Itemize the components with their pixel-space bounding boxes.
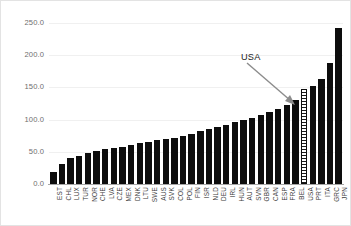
- bar: [284, 105, 290, 184]
- bar-column: [50, 172, 56, 184]
- bar: [240, 120, 246, 184]
- bar-highlighted-usa: [301, 89, 307, 184]
- bar-column: [93, 151, 99, 184]
- x-axis-tick-label: DEU: [220, 187, 227, 221]
- x-axis-tick-label: HUN: [238, 187, 245, 221]
- bar-column: [67, 158, 73, 184]
- bar-column: [275, 109, 281, 184]
- bar: [119, 147, 125, 184]
- y-axis-tick-label: 150.0: [2, 83, 44, 91]
- bar-column: [206, 129, 212, 184]
- bar-column: [59, 164, 65, 184]
- bar-column: [310, 86, 316, 184]
- bar: [258, 115, 264, 184]
- x-axis-tick-label: GRC: [333, 187, 340, 221]
- x-axis-tick-label: CHE: [99, 187, 106, 221]
- bar-column: [137, 143, 143, 184]
- y-axis-tick-label: 0.0: [2, 180, 44, 188]
- bar-column: [232, 122, 238, 184]
- x-axis-tick-label: LTU: [142, 187, 149, 221]
- bar-column: [180, 136, 186, 184]
- bar-column: [292, 100, 298, 184]
- bar: [163, 139, 169, 184]
- bar: [50, 172, 56, 184]
- bar-column: [154, 140, 160, 184]
- x-axis-tick-label: NLD: [212, 187, 219, 221]
- bar-column: [266, 112, 272, 184]
- x-axis-tick-label: COL: [177, 187, 184, 221]
- gridline: [49, 23, 343, 24]
- bar: [214, 127, 220, 184]
- bar-column: [284, 105, 290, 184]
- bar: [327, 63, 333, 184]
- bar-column: [111, 148, 117, 184]
- bar-column: [327, 63, 333, 184]
- bar-column: [223, 125, 229, 184]
- x-axis-tick-label: GBR: [263, 187, 270, 221]
- bar: [59, 164, 65, 184]
- x-axis-tick-label: EST: [56, 187, 63, 221]
- bar: [67, 158, 73, 184]
- x-axis-tick-label: SWE: [151, 187, 158, 221]
- annotation-label-usa: USA: [241, 52, 261, 62]
- x-axis-tick-label: SVK: [168, 187, 175, 221]
- bar-column: [214, 127, 220, 184]
- bar-column: [171, 138, 177, 184]
- bar-column: [128, 145, 134, 184]
- x-axis-tick-label: CHL: [65, 187, 72, 221]
- bar-column: [197, 131, 203, 184]
- bar: [180, 136, 186, 184]
- x-axis-tick-label: ITA: [324, 187, 331, 221]
- bar: [145, 142, 151, 184]
- bar-column: [240, 120, 246, 184]
- x-axis-tick-label: SVN: [255, 187, 262, 221]
- bar-column: [119, 147, 125, 184]
- y-axis-tick-label: 100.0: [2, 116, 44, 124]
- x-axis-tick-label: DNK: [134, 187, 141, 221]
- x-axis-tick-label: POL: [186, 187, 193, 221]
- bar-column: [85, 153, 91, 184]
- bar: [85, 153, 91, 184]
- bar: [292, 100, 298, 184]
- x-axis-tick-label: LVA: [108, 187, 115, 221]
- y-axis-tick-label: 50.0: [2, 148, 44, 156]
- bar: [137, 143, 143, 184]
- plot-area: [49, 23, 343, 184]
- bar: [102, 149, 108, 184]
- bar: [232, 122, 238, 184]
- x-axis-tick-label: AUT: [246, 187, 253, 221]
- x-axis-tick-label: JPN: [341, 187, 348, 221]
- x-axis-tick-label: PRT: [315, 187, 322, 221]
- bar: [93, 151, 99, 184]
- bar-column: [145, 142, 151, 184]
- x-axis-tick-label: TUR: [82, 187, 89, 221]
- bar-column: [335, 28, 341, 184]
- bar: [335, 28, 341, 184]
- x-axis-tick-label: IRL: [229, 187, 236, 221]
- gridline: [49, 87, 343, 88]
- bar: [76, 156, 82, 184]
- bar-column: [301, 89, 307, 184]
- bar: [188, 134, 194, 184]
- x-axis-tick-label: FIN: [194, 187, 201, 221]
- gridline: [49, 120, 343, 121]
- bar-column: [76, 156, 82, 184]
- gridline: [49, 55, 343, 56]
- x-axis-tick-label: ISR: [203, 187, 210, 221]
- y-axis-tick-label: 250.0: [2, 19, 44, 27]
- x-axis-tick-label: AUS: [160, 187, 167, 221]
- bar: [223, 125, 229, 184]
- bar: [266, 112, 272, 184]
- bar: [154, 140, 160, 184]
- bar: [197, 131, 203, 184]
- bar: [318, 79, 324, 184]
- bar-column: [258, 115, 264, 184]
- x-axis-tick-label: USA: [307, 187, 314, 221]
- bar: [206, 129, 212, 184]
- x-axis-tick-label: MEX: [125, 187, 132, 221]
- bar-column: [163, 139, 169, 184]
- bar: [171, 138, 177, 184]
- bar-column: [188, 134, 194, 184]
- x-axis-tick-label: BEL: [298, 187, 305, 221]
- bar-column: [249, 118, 255, 184]
